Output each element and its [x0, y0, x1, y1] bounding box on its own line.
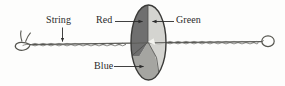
- label-red: Red: [96, 15, 112, 25]
- string-right-loop: [262, 36, 274, 47]
- label-blue: Blue: [94, 61, 113, 71]
- label-green: Green: [176, 15, 201, 25]
- string-right-segment: [166, 41, 262, 44]
- figure-illustration: [0, 0, 285, 86]
- disk: [131, 5, 166, 80]
- label-string: String: [46, 15, 71, 25]
- string-left-knot: [15, 31, 30, 51]
- figure-container: String Red Green Blue: [0, 0, 285, 86]
- string-left-segment: [30, 43, 131, 46]
